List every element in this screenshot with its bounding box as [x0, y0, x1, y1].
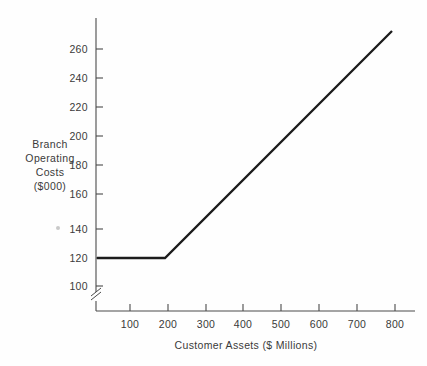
y-tick-label-100: 100: [69, 280, 88, 292]
y-tick-label-160: 160: [69, 188, 88, 200]
line-chart: 260 240 220 200 180 160 140 120 100 100 …: [0, 0, 427, 366]
y-tick-label-140: 140: [69, 223, 88, 235]
x-tick-marks: [130, 304, 395, 311]
x-axis-title: Customer Assets ($ Millions): [175, 339, 318, 351]
chart-page: 260 240 220 200 180 160 140 120 100 100 …: [0, 0, 427, 366]
x-tick-label-300: 300: [197, 318, 216, 330]
y-tick-label-120: 120: [69, 252, 88, 264]
y-tick-label-200: 200: [69, 130, 88, 142]
y-tick-label-240: 240: [69, 72, 88, 84]
y-axis-title-line-2: Operating: [25, 152, 74, 164]
x-tick-label-500: 500: [272, 318, 291, 330]
scan-artifact-speck: [56, 226, 60, 230]
y-tick-label-220: 220: [69, 101, 88, 113]
y-axis-title-line-4: ($000): [34, 180, 66, 192]
x-tick-label-600: 600: [310, 318, 329, 330]
x-tick-label-100: 100: [121, 318, 140, 330]
x-tick-label-400: 400: [234, 318, 253, 330]
data-series-branch-operating-costs: [97, 31, 392, 258]
y-tick-label-260: 260: [69, 43, 88, 55]
y-tick-marks: [96, 49, 103, 286]
x-tick-label-200: 200: [159, 318, 178, 330]
y-axis-title-line-1: Branch: [32, 138, 67, 150]
x-tick-label-800: 800: [386, 318, 405, 330]
x-tick-label-700: 700: [348, 318, 367, 330]
y-axis-title-line-3: Costs: [36, 166, 65, 178]
